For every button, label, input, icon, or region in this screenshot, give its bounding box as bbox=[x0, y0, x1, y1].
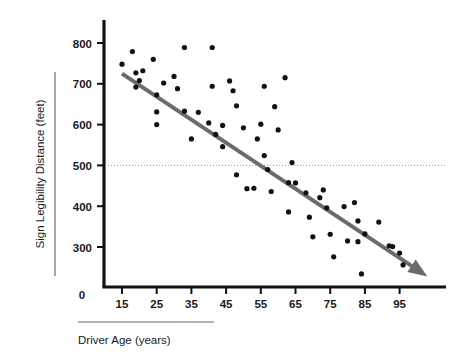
data-point bbox=[359, 271, 364, 276]
data-point bbox=[303, 190, 308, 195]
data-point bbox=[352, 200, 357, 205]
data-point bbox=[282, 75, 287, 80]
data-point bbox=[276, 127, 281, 132]
data-point bbox=[331, 254, 336, 259]
data-point bbox=[376, 220, 381, 225]
data-point bbox=[137, 78, 142, 83]
data-point bbox=[189, 136, 194, 141]
data-point bbox=[234, 172, 239, 177]
data-point bbox=[362, 231, 367, 236]
data-point bbox=[328, 232, 333, 237]
trend-line bbox=[122, 74, 427, 277]
data-point bbox=[230, 88, 235, 93]
data-point bbox=[175, 86, 180, 91]
y-tick-label: 600 bbox=[73, 119, 92, 131]
data-point bbox=[210, 84, 215, 89]
x-tick-label: 45 bbox=[220, 298, 233, 310]
origin-label: 0 bbox=[79, 289, 85, 301]
data-point bbox=[255, 136, 260, 141]
data-point bbox=[307, 215, 312, 220]
data-point bbox=[400, 262, 405, 267]
data-point bbox=[286, 180, 291, 185]
x-tick-label: 85 bbox=[359, 298, 372, 310]
y-axis-ticks: 8007006005004003000 bbox=[73, 38, 104, 302]
y-tick-label: 400 bbox=[73, 201, 92, 213]
data-point bbox=[182, 109, 187, 114]
data-point bbox=[269, 189, 274, 194]
data-point bbox=[196, 110, 201, 115]
x-tick-label: 55 bbox=[254, 298, 267, 310]
data-point bbox=[154, 92, 159, 97]
y-tick-label: 800 bbox=[73, 38, 92, 50]
y-tick-label: 300 bbox=[73, 242, 92, 254]
x-tick-label: 65 bbox=[289, 298, 302, 310]
data-point bbox=[133, 70, 138, 75]
data-point bbox=[324, 205, 329, 210]
data-point bbox=[355, 218, 360, 223]
data-point bbox=[355, 239, 360, 244]
data-point bbox=[265, 167, 270, 172]
data-point bbox=[171, 74, 176, 79]
data-point bbox=[227, 78, 232, 83]
x-tick-label: 35 bbox=[185, 298, 198, 310]
data-point bbox=[133, 84, 138, 89]
data-point bbox=[262, 153, 267, 158]
data-point bbox=[119, 62, 124, 67]
data-point bbox=[182, 45, 187, 50]
data-point bbox=[220, 123, 225, 128]
data-point bbox=[140, 68, 145, 73]
data-point bbox=[220, 144, 225, 149]
data-point bbox=[321, 187, 326, 192]
data-point bbox=[161, 80, 166, 85]
data-point bbox=[151, 57, 156, 62]
data-point bbox=[262, 84, 267, 89]
x-axis-ticks: 152535455565758595 bbox=[116, 287, 407, 310]
data-point bbox=[234, 103, 239, 108]
data-point bbox=[206, 120, 211, 125]
x-tick-label: 75 bbox=[324, 298, 337, 310]
data-point bbox=[293, 180, 298, 185]
data-point bbox=[310, 234, 315, 239]
x-tick-label: 15 bbox=[116, 298, 129, 310]
data-point bbox=[210, 45, 215, 50]
y-tick-label: 500 bbox=[73, 160, 92, 172]
x-axis-title: Driver Age (years) bbox=[78, 334, 171, 346]
data-point bbox=[397, 251, 402, 256]
data-point bbox=[272, 104, 277, 109]
data-point bbox=[317, 195, 322, 200]
x-tick-label: 25 bbox=[150, 298, 163, 310]
data-point bbox=[341, 204, 346, 209]
data-point bbox=[251, 186, 256, 191]
scatter-plot-figure: 152535455565758595 8007006005004003000 S… bbox=[0, 0, 454, 359]
data-point bbox=[258, 122, 263, 127]
data-point bbox=[241, 125, 246, 130]
data-point bbox=[154, 109, 159, 114]
data-point bbox=[154, 122, 159, 127]
data-point bbox=[286, 209, 291, 214]
chart-canvas: 152535455565758595 8007006005004003000 S… bbox=[0, 0, 454, 359]
data-point bbox=[213, 132, 218, 137]
data-point bbox=[244, 186, 249, 191]
y-tick-label: 700 bbox=[73, 78, 92, 90]
y-axis-title: Sign Legibility Distance (feet) bbox=[34, 99, 46, 248]
data-points bbox=[119, 45, 405, 277]
data-point bbox=[130, 49, 135, 54]
data-point bbox=[289, 160, 294, 165]
data-point bbox=[345, 238, 350, 243]
data-point bbox=[390, 244, 395, 249]
x-tick-label: 95 bbox=[393, 298, 406, 310]
